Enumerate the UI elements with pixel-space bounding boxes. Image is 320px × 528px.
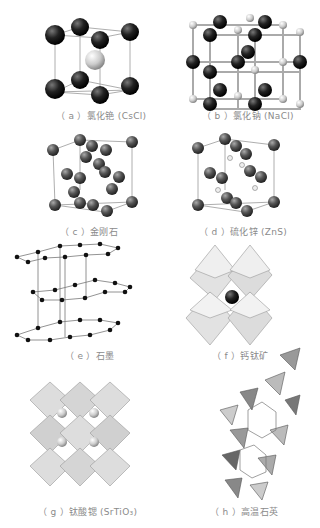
caption-g: （ g ）钛酸锶 (SrTiO₃) — [38, 505, 137, 518]
perovskite-center-atom — [225, 290, 239, 304]
caption-e: （ e ）石墨 — [65, 349, 114, 362]
crystal-structures-figure — [0, 0, 320, 528]
caption-f: （ f ）钙钛矿 — [212, 349, 268, 362]
caption-h: （ h ）高温石英 — [210, 505, 278, 518]
caption-c: （ c ）金刚石 — [60, 225, 118, 238]
caption-d: （ d ）硫化锌 (ZnS) — [199, 225, 287, 238]
caption-b: （ b ）氯化钠 (NaCl) — [202, 109, 294, 122]
caption-a: （ a ）氯化铯 (CsCl) — [56, 109, 146, 122]
srtio3-octahedra — [30, 382, 130, 486]
quartz-tetrahedra — [220, 348, 300, 500]
cscl-atoms — [45, 18, 139, 104]
